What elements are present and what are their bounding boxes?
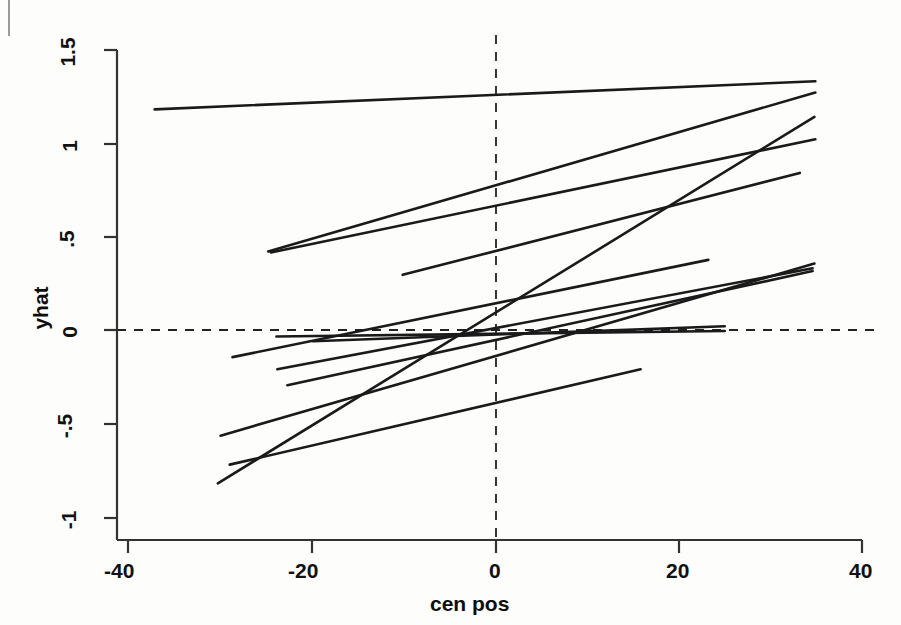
y-tick-label-0: 0 <box>58 326 82 338</box>
x-tick-label--20: -20 <box>288 559 318 583</box>
axis-lines <box>117 50 862 540</box>
y-axis-title: yhat <box>29 263 53 353</box>
y-tick-label-0.5: .5 <box>55 230 79 248</box>
line-4 <box>403 173 800 275</box>
figure-canvas: 1.5 1 .5 0 -.5 -1 -40 -20 0 20 40 yhat c… <box>0 0 901 625</box>
x-axis-title: cen pos <box>430 592 509 616</box>
y-tick-label--1: -1 <box>57 511 81 530</box>
x-tick-label-40: 40 <box>849 559 872 583</box>
plot-area <box>0 0 901 625</box>
y-tick-label-1: 1 <box>58 140 82 152</box>
x-tick-label-20: 20 <box>666 559 689 583</box>
fitted-line-series <box>155 81 816 483</box>
line-2 <box>268 93 815 252</box>
y-axis-ticks <box>104 50 117 518</box>
y-tick-label--0.5: -.5 <box>53 414 77 439</box>
x-tick-label-0: 0 <box>489 559 501 583</box>
x-tick-label--40: -40 <box>104 559 134 583</box>
line-9 <box>287 271 812 385</box>
line-1 <box>155 81 816 109</box>
x-axis-ticks <box>128 540 862 553</box>
line-3 <box>271 139 815 252</box>
y-tick-label-1.5: 1.5 <box>56 37 80 66</box>
